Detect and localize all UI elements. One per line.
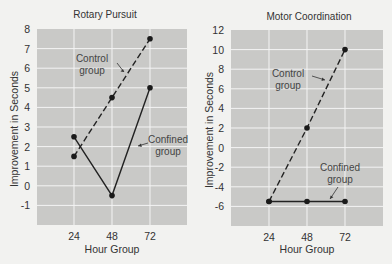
y-axis-ticks: 876543210-1: [21, 23, 31, 211]
y-tick-label: 4: [24, 101, 30, 113]
y-tick-label: 1: [24, 160, 30, 172]
annotation-confined-line2: group: [155, 146, 181, 157]
x-tick-label: 48: [106, 230, 118, 242]
y-tick-label: -2: [215, 161, 224, 173]
x-axis-label: Hour Group: [280, 243, 335, 255]
annotation-confined-line1: Confined: [320, 162, 360, 173]
y-tick-label: 8: [218, 63, 224, 75]
annotation-confined-line2: group: [327, 174, 353, 185]
annotation-confined-line1: Confined: [148, 134, 188, 145]
y-tick-label: 2: [218, 122, 224, 134]
chart-title: Motor Coordination: [266, 11, 351, 22]
annotation-control-line1: Control: [76, 53, 108, 64]
y-tick-label: 7: [24, 43, 30, 55]
x-tick-label: 72: [144, 230, 156, 242]
y-tick-label: 4: [218, 102, 224, 114]
figure: Rotary Pursuit 876543210-1 244872 Hour G…: [0, 0, 392, 264]
x-tick-label: 24: [68, 230, 80, 242]
data-point: [109, 95, 115, 101]
y-tick-label: 2: [24, 141, 30, 153]
x-tick-label: 24: [263, 231, 275, 243]
y-tick-label: 5: [24, 82, 30, 94]
y-tick-label: -1: [21, 199, 30, 211]
x-axis-ticks: 244872: [263, 231, 351, 243]
x-axis-ticks: 244872: [68, 230, 156, 242]
data-point: [147, 36, 153, 42]
y-tick-label: 0: [24, 180, 30, 192]
y-tick-label: 0: [218, 142, 224, 154]
y-tick-label: -6: [215, 200, 224, 212]
y-axis-label: Improvement in Seconds: [203, 72, 215, 188]
x-axis-label: Hour Group: [85, 243, 140, 255]
data-point: [304, 199, 310, 205]
annotation-control-line2: group: [275, 80, 301, 91]
y-tick-label: 12: [212, 24, 224, 36]
data-point: [342, 47, 348, 53]
y-axis-label: Improvement in Seconds: [8, 71, 20, 187]
data-point: [71, 154, 77, 160]
y-tick-label: 10: [212, 44, 224, 56]
data-point: [304, 125, 310, 131]
y-tick-label: 6: [218, 83, 224, 95]
data-point: [342, 199, 348, 205]
y-tick-label: 8: [24, 23, 30, 35]
y-tick-label: -4: [215, 181, 224, 193]
chart-title: Rotary Pursuit: [73, 9, 137, 20]
data-point: [71, 134, 77, 140]
x-tick-label: 72: [339, 231, 351, 243]
motor-coordination-chart: Motor Coordination 121086420-2-4-6 24487…: [203, 11, 383, 255]
annotation-control-line2: group: [79, 65, 105, 76]
data-point: [109, 193, 115, 199]
y-tick-label: 6: [24, 62, 30, 74]
data-point: [147, 85, 153, 91]
y-tick-label: 3: [24, 121, 30, 133]
x-tick-label: 48: [301, 231, 313, 243]
data-point: [266, 199, 272, 205]
rotary-pursuit-chart: Rotary Pursuit 876543210-1 244872 Hour G…: [8, 9, 188, 255]
annotation-control-line1: Control: [272, 68, 304, 79]
